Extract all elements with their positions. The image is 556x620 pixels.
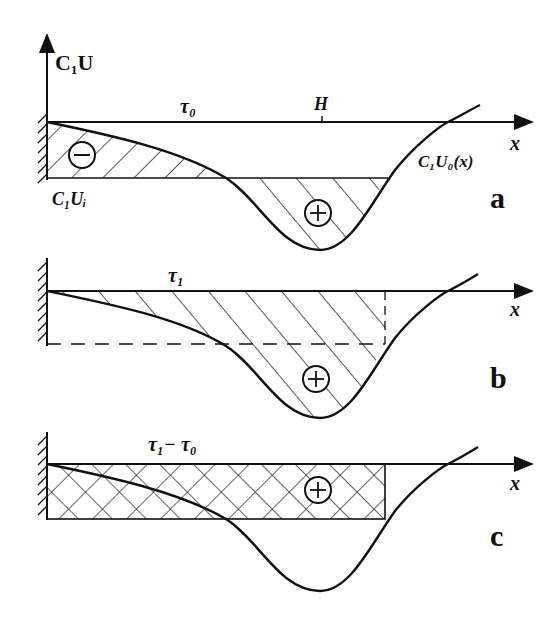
wall-hatch-icon (38, 436, 47, 515)
curve-label: C₁U₀(x) (418, 152, 473, 171)
potential-diagram: C₁U τ₀ H x C₁U₀(x) C₁U (0, 0, 556, 620)
panel-a: C₁U τ₀ H x C₁U₀(x) C₁U (38, 35, 532, 255)
x-axis-label: x (509, 132, 520, 154)
wall-hatch-icon (38, 114, 47, 183)
cross-hatched-region (47, 464, 385, 519)
positive-region (47, 288, 387, 423)
plus-sign-icon (305, 200, 331, 226)
panel-c: τ₁− τ₀ x c (38, 432, 532, 591)
time-label: τ₀ (180, 95, 196, 117)
time-label: τ₁− τ₀ (148, 433, 197, 455)
panel-label: b (490, 361, 507, 394)
y-axis-label: C₁U (55, 50, 93, 75)
level-label: C₁Uᵢ (52, 189, 86, 209)
x-axis-label: x (509, 472, 520, 494)
panel-b: τ₁ x b (38, 258, 532, 423)
time-label: τ₁ (168, 264, 184, 286)
wall-hatch-icon (38, 262, 47, 341)
panel-label: c (490, 519, 503, 552)
plus-sign-icon (303, 366, 329, 392)
panel-label: a (490, 181, 505, 214)
marker-label: H (313, 94, 329, 114)
minus-sign-icon (69, 142, 95, 168)
x-axis-label: x (509, 298, 520, 320)
plus-sign-icon (305, 477, 331, 503)
